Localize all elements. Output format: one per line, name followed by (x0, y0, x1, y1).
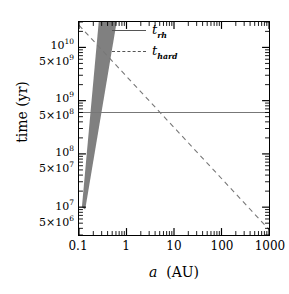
legend-key-t_hard (112, 51, 146, 52)
x-axis-title-unit: (AU) (166, 264, 199, 280)
legend-label-t_hard: thard (152, 43, 178, 58)
y-tick-label: 108 (55, 147, 74, 158)
y-tick-label: 5×106 (39, 217, 74, 228)
x-axis-title: a (AU) (78, 264, 270, 280)
y-tick-label: 107 (55, 201, 74, 212)
legend-item-t_rh: trh (112, 22, 192, 43)
y-tick-label: 5×107 (39, 163, 74, 174)
y-tick-label: 109 (55, 93, 74, 104)
y-tick-label: 5×108 (39, 110, 74, 121)
legend-key-t_rh (112, 30, 146, 31)
x-axis-title-symbol: a (149, 264, 157, 280)
legend: trhthard (112, 22, 192, 64)
figure-container: time (yr) a (AU) 5×1061075×1071085×10810… (0, 0, 289, 294)
y-tick-label: 1010 (50, 40, 74, 51)
legend-item-t_hard: thard (112, 43, 192, 64)
y-tick-label: 5×109 (39, 56, 74, 67)
legend-label-t_rh: trh (152, 22, 167, 37)
y-axis-title: time (yr) (14, 52, 30, 172)
x-tick-label: 1000 (240, 240, 289, 252)
